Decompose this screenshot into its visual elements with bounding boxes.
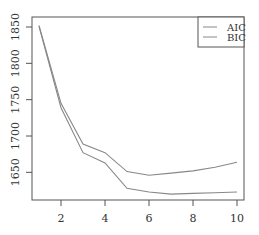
y-tick-label: 1850 <box>9 13 22 41</box>
y-tick-label: 1800 <box>9 49 22 77</box>
y-axis: 16501700175018001850 <box>9 13 32 186</box>
x-tick-label: 6 <box>146 212 153 225</box>
x-tick-label: 10 <box>230 212 244 225</box>
y-tick-label: 1650 <box>9 158 22 186</box>
x-tick-label: 4 <box>102 212 109 225</box>
legend-bic-label: BIC <box>227 32 246 43</box>
line-chart: 16501700175018001850 246810 AIC BIC <box>0 0 259 235</box>
x-tick-label: 8 <box>190 212 197 225</box>
series-lines <box>39 26 237 195</box>
y-tick-label: 1750 <box>9 86 22 114</box>
y-tick-label: 1700 <box>9 122 22 150</box>
series-bic-line <box>39 26 237 176</box>
legend: AIC BIC <box>198 17 246 47</box>
x-tick-label: 2 <box>58 212 65 225</box>
x-axis: 246810 <box>58 200 245 225</box>
